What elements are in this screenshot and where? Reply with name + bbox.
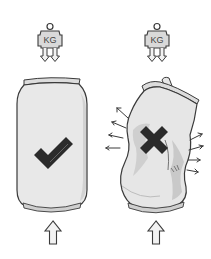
- kg-label: KG: [43, 35, 56, 45]
- bulge-arrows-left: [106, 108, 128, 150]
- arrow-icon: [190, 133, 202, 140]
- up-arrow-icon: [148, 221, 164, 244]
- crushed-can: [121, 77, 199, 212]
- arrow-icon: [117, 108, 128, 118]
- arrow-icon: [109, 133, 123, 138]
- can-crush-diagram: KG: [0, 0, 211, 259]
- arrow-icon: [106, 146, 120, 150]
- panel-intact: KG: [17, 24, 87, 245]
- arrow-icon: [188, 158, 200, 162]
- up-arrow-icon: [45, 221, 61, 244]
- intact-can: [17, 78, 87, 212]
- kg-label: KG: [150, 35, 163, 45]
- arrow-icon: [187, 169, 198, 174]
- kg-weight-icon: KG: [38, 24, 62, 62]
- panel-crushed: KG: [106, 24, 203, 245]
- kg-weight-icon: KG: [145, 24, 169, 62]
- arrow-icon: [112, 121, 126, 128]
